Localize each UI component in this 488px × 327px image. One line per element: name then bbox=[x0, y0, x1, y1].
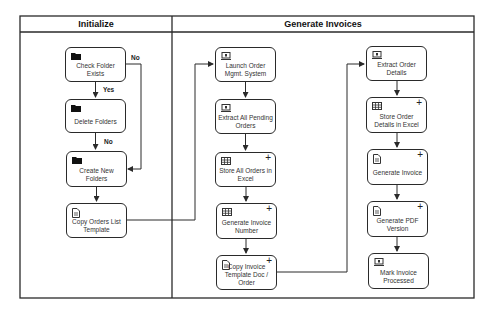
edge-label-no: No bbox=[131, 54, 140, 61]
node-store-all-orders-in-excel[interactable]: + Store All Orders in Excel bbox=[215, 152, 276, 187]
node-label: Launch Order Mgmt. System bbox=[218, 61, 273, 79]
node-mark-invoice-processed[interactable]: Mark Invoice Processed bbox=[368, 253, 429, 289]
folder-icon bbox=[71, 104, 81, 112]
spreadsheet-icon bbox=[221, 157, 231, 165]
node-label: Mark Invoice Processed bbox=[371, 267, 426, 286]
node-generate-pdf-version[interactable]: + Generate PDF Version bbox=[367, 201, 428, 237]
lane-title-generate-invoices: Generate Invoices bbox=[172, 16, 474, 32]
spreadsheet-icon bbox=[222, 208, 232, 216]
node-copy-orders-list-template[interactable]: Copy Orders List Template bbox=[66, 203, 127, 238]
node-extract-order-details[interactable]: Extract Order Details bbox=[366, 46, 427, 81]
node-generate-invoice-number[interactable]: + Generate Invoice Number bbox=[216, 203, 277, 239]
node-label: Extract Order Details bbox=[369, 60, 424, 78]
folder-icon bbox=[71, 52, 81, 60]
node-label: Generate PDF Version bbox=[370, 215, 425, 234]
node-delete-folders[interactable]: Delete Folders bbox=[65, 99, 126, 133]
node-launch-order-mgmt-system[interactable]: Launch Order Mgmt. System bbox=[215, 47, 276, 82]
node-generate-invoice[interactable]: + Generate Invoice bbox=[367, 149, 428, 185]
node-label: Generate Invoice bbox=[370, 163, 425, 182]
edge-label-no: No bbox=[104, 138, 113, 145]
node-label: Create New Folders bbox=[69, 165, 124, 184]
application-icon bbox=[374, 258, 384, 266]
node-label: Copy Orders List Template bbox=[69, 217, 124, 235]
node-label: Delete Folders bbox=[68, 113, 123, 130]
node-copy-invoice-template[interactable]: + Copy Invoice Template Doc / Order bbox=[216, 255, 277, 290]
subprocess-plus-icon: + bbox=[266, 204, 272, 214]
node-label: Extract All Pending Orders bbox=[218, 113, 273, 131]
node-label: Store Order Details in Excel bbox=[369, 111, 424, 130]
spreadsheet-icon bbox=[372, 102, 382, 110]
node-label: Generate Invoice Number bbox=[219, 217, 274, 236]
lane-title-initialize: Initialize bbox=[20, 16, 172, 32]
node-check-folder-exists[interactable]: Check Folder Exists bbox=[65, 47, 126, 82]
edge-label-yes: Yes bbox=[103, 86, 114, 93]
application-icon bbox=[372, 51, 382, 59]
subprocess-plus-icon: + bbox=[416, 98, 422, 108]
node-label: Check Folder Exists bbox=[68, 61, 123, 79]
folder-icon bbox=[72, 156, 82, 164]
node-store-order-details-in-excel[interactable]: + Store Order Details in Excel bbox=[366, 97, 427, 133]
node-label: Store All Orders in Excel bbox=[218, 166, 273, 184]
subprocess-plus-icon: + bbox=[265, 153, 271, 163]
application-icon bbox=[221, 104, 231, 112]
node-extract-all-pending-orders[interactable]: Extract All Pending Orders bbox=[215, 99, 276, 134]
process-diagram: Initialize Generate Invoices Yes No No C… bbox=[0, 0, 488, 327]
subprocess-plus-icon: + bbox=[417, 202, 423, 212]
subprocess-plus-icon: + bbox=[417, 150, 423, 160]
application-icon bbox=[221, 52, 231, 60]
node-create-new-folders[interactable]: Create New Folders bbox=[66, 151, 127, 187]
node-label: Copy Invoice Template Doc / Order bbox=[219, 262, 274, 287]
